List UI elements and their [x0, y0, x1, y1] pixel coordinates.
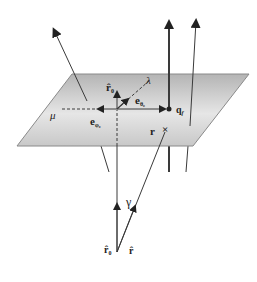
label-gamma: γ [125, 195, 132, 209]
label-r0-hat-bottom: r̂0 [104, 244, 111, 256]
label-r-hat: r̂ [129, 245, 134, 256]
r-marker-icon: × [162, 123, 168, 135]
below-plane-segments [101, 146, 188, 172]
qf-point [167, 107, 172, 112]
geometry-diagram: r̂0 λ eθ₀ μ eφ₀ qf r × γ r̂0 r̂ [0, 0, 257, 282]
label-r: r [150, 125, 155, 137]
label-mu: μ [49, 109, 56, 121]
label-lambda: λ [145, 74, 151, 86]
